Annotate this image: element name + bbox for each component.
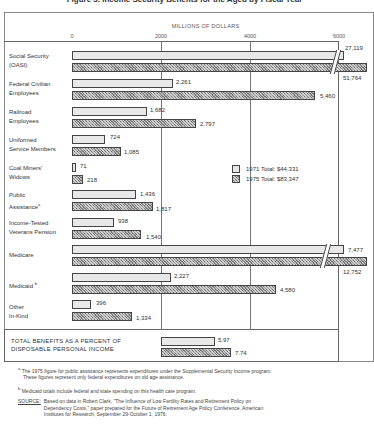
value-veterans-pension-1971: 938 xyxy=(118,218,128,224)
tick-6000: 6000 xyxy=(333,33,345,39)
tick-2000: 2000 xyxy=(155,33,167,39)
bar-social-security-1971 xyxy=(72,51,344,60)
legend-swatch-1975 xyxy=(232,175,240,183)
bar-uniformed-1971 xyxy=(72,135,105,144)
value-federal-civilian-1971: 2,261 xyxy=(176,79,191,85)
bar-other-in-kind-1975 xyxy=(72,312,132,321)
category-uniformed: UniformedService Members xyxy=(9,136,56,154)
category-public-assistance: PublicAssistancea xyxy=(9,191,40,212)
value-social-security-1971: 27,119 xyxy=(345,45,363,51)
value-veterans-pension-1975: 1,540 xyxy=(146,234,161,240)
bar-medicaid-1975 xyxy=(72,285,276,294)
footnote-a: a The 1975 figure for public assistance … xyxy=(18,366,272,381)
value-other-in-kind-1971: 396 xyxy=(96,300,106,306)
legend-swatch-1971 xyxy=(232,165,240,173)
value-uniformed-1971: 724 xyxy=(110,134,120,140)
category-social-security: Social Security(OASI) xyxy=(9,52,49,70)
category-coal-miners: Coal Miners'Widows xyxy=(9,164,42,182)
value-federal-civilian-1975: 5,460 xyxy=(320,93,335,99)
summary-bar-1975 xyxy=(161,348,231,357)
bar-railroad-1971 xyxy=(72,107,147,116)
summary-label: TOTAL BENEFITS AS A PERCENT OFDISPOSABLE… xyxy=(11,337,121,353)
bar-coal-miners-1971 xyxy=(72,163,76,172)
bar-social-security-1975 xyxy=(72,63,367,72)
value-medicare-1971: 7,477 xyxy=(348,247,363,253)
bar-uniformed-1975 xyxy=(72,147,121,156)
category-veterans-pension: Income-TestedVeterans Pension xyxy=(9,219,56,237)
footnote-b: b Medicaid totals include federal and st… xyxy=(18,386,196,394)
category-railroad: RailroadEmployees xyxy=(9,108,39,126)
bar-public-assistance-1975 xyxy=(72,202,153,211)
category-medicaid: Medicaid b xyxy=(9,279,37,291)
tick-4000: 4000 xyxy=(244,33,256,39)
category-federal-civilian: Federal CivilianEmployees xyxy=(9,80,50,98)
value-medicaid-1971: 2,227 xyxy=(174,273,189,279)
value-social-security-1975: 51,764 xyxy=(343,75,361,81)
value-public-assistance-1975: 1,817 xyxy=(156,206,171,212)
value-medicaid-1975: 4,580 xyxy=(280,287,295,293)
bar-veterans-pension-1975 xyxy=(72,230,141,239)
summary-value-1971: 5.97 xyxy=(218,337,230,343)
bar-veterans-pension-1971 xyxy=(72,218,114,227)
source-note: SOURCE: Based on data in Robert Clark, "… xyxy=(18,398,363,418)
legend-label-1975: 1975 Total: $83,347 xyxy=(246,176,299,182)
value-uniformed-1975: 1,085 xyxy=(124,149,139,155)
tick-0: 0 xyxy=(70,33,73,39)
figure-title: Figure 3. Income Security Benefits for t… xyxy=(0,0,369,4)
bar-other-in-kind-1971 xyxy=(72,300,91,309)
bar-public-assistance-1971 xyxy=(72,190,136,199)
category-medicare: Medicare xyxy=(9,251,34,260)
value-coal-miners-1975: 218 xyxy=(87,177,97,183)
bar-medicare-1971 xyxy=(72,245,344,254)
axis-title: MILLIONS OF DOLLARS xyxy=(72,23,339,29)
summary-value-1975: 7.74 xyxy=(235,350,247,356)
summary-bar-1971 xyxy=(161,337,215,346)
value-railroad-1975: 2,797 xyxy=(200,121,215,127)
bar-railroad-1975 xyxy=(72,119,196,128)
bar-medicaid-1971 xyxy=(72,273,171,282)
bar-coal-miners-1975 xyxy=(72,175,83,184)
category-other-in-kind: OtherIn-Kind xyxy=(9,303,28,321)
bar-federal-civilian-1971 xyxy=(72,79,173,88)
value-medicare-1975: 12,752 xyxy=(343,269,361,275)
value-other-in-kind-1975: 1,334 xyxy=(136,315,151,321)
value-public-assistance-1971: 1,436 xyxy=(140,191,155,197)
value-railroad-1971: 1,682 xyxy=(150,107,165,113)
legend-label-1971: 1971 Total: $44,331 xyxy=(246,166,299,172)
value-coal-miners-1971: 71 xyxy=(80,163,87,169)
bar-federal-civilian-1975 xyxy=(72,91,315,100)
